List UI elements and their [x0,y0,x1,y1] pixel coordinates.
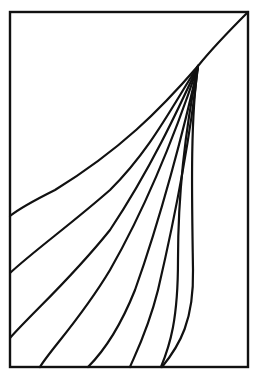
fan-curves-diagram [0,0,259,379]
main-diagonal-line [198,12,248,66]
fan-curve-3 [10,66,198,338]
frame-rectangle [10,12,248,367]
